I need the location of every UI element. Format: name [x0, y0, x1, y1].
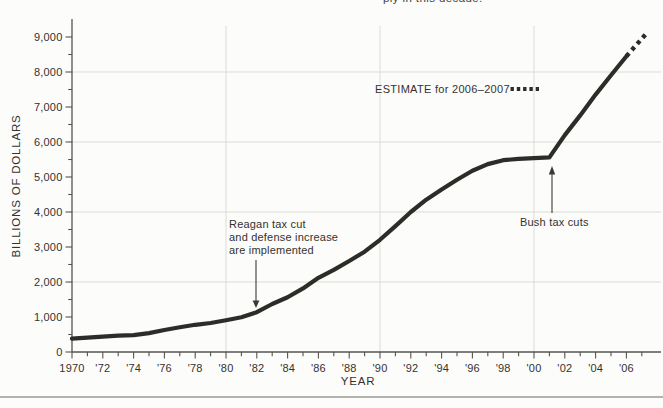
- x-tick-label: '80: [219, 362, 234, 374]
- gridlines: [72, 26, 661, 352]
- annotation-reagan: Reagan tax cut and defense increase are …: [229, 218, 338, 308]
- x-tick-label: '76: [157, 362, 172, 374]
- reagan-arrow-head: [253, 301, 260, 309]
- estimate-dashed-segment: [626, 32, 648, 57]
- y-tick-label: 4,000: [34, 206, 63, 218]
- y-tick-label: 8,000: [34, 66, 63, 78]
- annotation-reagan-line3: are implemented: [229, 244, 314, 256]
- x-tick-label: '82: [249, 362, 264, 374]
- y-tick-label: 3,000: [34, 241, 63, 253]
- x-tick-label: '00: [527, 362, 542, 374]
- chart-page: ply in this decade. 01,0002,0003,0004,00…: [0, 0, 663, 408]
- x-tick-label: '88: [342, 362, 357, 374]
- y-tick-label: 9,000: [34, 31, 63, 43]
- x-axis-title: YEAR: [341, 375, 376, 387]
- x-tick-label: '96: [465, 362, 480, 374]
- annotation-reagan-line2: and defense increase: [229, 231, 338, 243]
- axis-ticks: [66, 37, 642, 359]
- y-axis-title: BILLIONS OF DOLLARS: [10, 114, 22, 257]
- y-tick-label: 0: [56, 346, 62, 358]
- bush-arrow-head: [549, 166, 555, 175]
- x-tick-label: '94: [434, 362, 449, 374]
- x-tick-label: '84: [280, 362, 295, 374]
- y-tick-label: 7,000: [34, 101, 63, 113]
- x-tick-label: '02: [557, 362, 572, 374]
- x-tick-label: '90: [373, 362, 388, 374]
- axis-tick-labels: 01,0002,0003,0004,0005,0006,0007,0008,00…: [34, 31, 634, 374]
- x-tick-label: '86: [311, 362, 326, 374]
- x-tick-label: 1970: [59, 362, 84, 374]
- y-tick-label: 5,000: [34, 171, 63, 183]
- x-tick-label: '06: [619, 362, 634, 374]
- debt-line-chart: 01,0002,0003,0004,0005,0006,0007,0008,00…: [0, 0, 663, 396]
- legend-estimate-label: ESTIMATE for 2006–2007: [375, 83, 510, 95]
- x-tick-label: '72: [95, 362, 110, 374]
- x-tick-label: '92: [403, 362, 418, 374]
- x-tick-label: '04: [588, 362, 603, 374]
- annotation-bush: Bush tax cuts: [520, 166, 589, 228]
- debt-line: [72, 56, 626, 339]
- annotation-reagan-line1: Reagan tax cut: [229, 218, 306, 230]
- y-tick-label: 1,000: [34, 311, 63, 323]
- axes: [72, 19, 661, 352]
- x-tick-label: '74: [126, 362, 141, 374]
- y-tick-label: 2,000: [34, 276, 63, 288]
- x-tick-label: '98: [496, 362, 511, 374]
- y-tick-label: 6,000: [34, 136, 63, 148]
- debt-curve: [72, 32, 648, 339]
- x-tick-label: '78: [188, 362, 203, 374]
- annotation-bush-line1: Bush tax cuts: [520, 216, 589, 228]
- page-bottom-rule: [0, 396, 663, 398]
